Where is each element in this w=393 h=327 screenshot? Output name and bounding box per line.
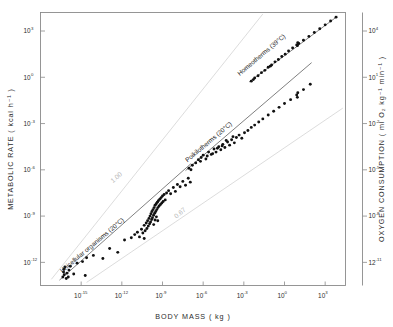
data-point — [260, 71, 263, 74]
x-tick-label: 10-12 — [115, 290, 129, 298]
data-point — [167, 189, 170, 192]
svg-text:10: 10 — [23, 27, 31, 34]
y-tick-label: 10-9 — [23, 211, 35, 219]
svg-text:10: 10 — [23, 259, 31, 266]
data-point — [283, 102, 286, 105]
data-point — [207, 151, 210, 154]
data-point — [296, 91, 299, 94]
data-point — [144, 229, 147, 232]
data-point — [140, 228, 143, 231]
figure-container: 10-1510-1210-910-610-3100103 10310010-31… — [0, 0, 393, 327]
data-point — [181, 180, 184, 183]
y-tick-label: 10-12 — [23, 257, 37, 265]
data-point — [169, 192, 172, 195]
data-point — [143, 224, 146, 227]
svg-text:10: 10 — [23, 166, 31, 173]
data-point — [194, 161, 197, 164]
data-point — [155, 215, 158, 218]
data-point — [116, 251, 119, 254]
svg-text:4: 4 — [376, 26, 379, 31]
data-point — [302, 39, 305, 42]
svg-text:-15: -15 — [81, 290, 88, 295]
data-point — [108, 247, 111, 250]
svg-text:3: 3 — [325, 290, 328, 295]
data-point — [335, 16, 338, 19]
x-tick-label: 10-9 — [155, 290, 167, 298]
y-tick-label: 100 — [23, 72, 34, 80]
data-point — [133, 233, 136, 236]
data-point — [296, 96, 299, 99]
data-point — [184, 184, 187, 187]
svg-text:-3: -3 — [31, 119, 35, 124]
data-point — [269, 65, 272, 68]
slope-label-1.00: 1.00 — [109, 170, 124, 184]
data-point — [252, 78, 255, 81]
svg-text:0: 0 — [285, 290, 288, 295]
x-tick-label: 100 — [277, 290, 287, 298]
data-point — [206, 154, 209, 157]
y-tick-label: 103 — [23, 26, 34, 34]
data-point — [81, 260, 84, 263]
fit-line-series-0 — [59, 164, 190, 280]
data-point — [65, 272, 68, 275]
y-tick-label: 10-6 — [23, 165, 35, 173]
data-point — [164, 198, 167, 201]
data-point — [123, 239, 126, 242]
data-point — [232, 135, 235, 138]
data-point — [191, 164, 194, 167]
data-point — [267, 114, 270, 117]
data-point — [233, 141, 236, 144]
y-axis-title: METABOLIC RATE ( kcal h⁻¹ ) — [6, 88, 15, 210]
series-label-0: Unicellular organisms (20°C) — [58, 216, 126, 274]
data-point — [289, 98, 292, 101]
data-point — [225, 139, 228, 142]
data-point — [318, 27, 321, 30]
data-point — [296, 44, 299, 47]
svg-text:-12: -12 — [122, 290, 129, 295]
data-point — [163, 193, 166, 196]
data-point — [187, 177, 190, 180]
data-point — [272, 110, 275, 113]
data-point — [138, 235, 141, 238]
data-point — [84, 274, 87, 277]
data-point — [243, 131, 246, 134]
data-point — [213, 148, 216, 151]
svg-text:10: 10 — [23, 120, 31, 127]
data-point — [287, 50, 290, 53]
svg-text:10: 10 — [23, 74, 31, 81]
data-point — [257, 121, 260, 124]
data-point — [72, 272, 75, 275]
data-point — [278, 106, 281, 109]
data-point — [329, 20, 332, 23]
data-point — [257, 74, 260, 77]
y-axis-ticks-group: 10310010-310-610-910-12 — [23, 26, 45, 266]
x-tick-label: 10-6 — [196, 290, 208, 298]
data-point — [284, 53, 287, 56]
data-point — [174, 190, 177, 193]
secondary-y-axis-title: OXYGEN CONSUMPTION ( ml O₂ kg⁻¹ min⁻¹ ) — [377, 56, 386, 242]
data-point — [199, 160, 202, 163]
data-point — [141, 232, 144, 235]
reference-line-1.00 — [51, 14, 262, 279]
svg-text:-6: -6 — [31, 165, 35, 170]
y2-tick-label: 12-11 — [369, 257, 383, 265]
slope-label-0.67: 0.67 — [173, 206, 188, 220]
svg-text:10: 10 — [23, 212, 31, 219]
data-point — [324, 23, 327, 26]
data-point — [179, 185, 182, 188]
data-point — [261, 117, 264, 120]
data-point — [211, 152, 214, 155]
data-point — [176, 183, 179, 186]
y-tick-label: 10-3 — [23, 119, 35, 127]
data-point — [221, 144, 224, 147]
data-point — [172, 186, 175, 189]
svg-text:3: 3 — [31, 26, 34, 31]
x-tick-label: 10-3 — [237, 290, 249, 298]
data-point — [246, 129, 249, 132]
data-point — [130, 236, 133, 239]
svg-text:-6: -6 — [203, 290, 207, 295]
data-point — [136, 231, 139, 234]
data-point — [190, 168, 193, 171]
data-point — [202, 154, 205, 157]
series-annotations-group: Unicellular organisms (20°C)Poikilotherm… — [58, 32, 287, 274]
